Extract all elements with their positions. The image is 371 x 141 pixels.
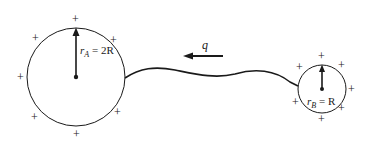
plus-charge-icon: + — [338, 101, 345, 115]
radius-b-arrowhead-icon — [319, 65, 325, 73]
plus-charge-icon: + — [292, 95, 299, 109]
sphere-b: rB = R + + + + + + + — [292, 49, 355, 126]
connecting-wire — [125, 68, 298, 86]
sphere-a-charges: + + + + + + + — [17, 12, 121, 141]
plus-charge-icon: + — [296, 60, 303, 74]
radius-b-label: rB = R — [307, 95, 336, 110]
plus-charge-icon: + — [110, 33, 117, 47]
charge-flow-indicator: q — [183, 38, 223, 60]
diagram-canvas: rA = 2R + + + + + + + q rB = R + + + + +… — [0, 0, 371, 141]
plus-charge-icon: + — [31, 110, 38, 124]
sphere-a-center-dot — [74, 75, 78, 79]
sphere-b-center-dot — [320, 87, 324, 91]
plus-charge-icon: + — [73, 127, 80, 141]
plus-charge-icon: + — [318, 112, 325, 126]
arrow-left-icon — [183, 53, 193, 60]
plus-charge-icon: + — [338, 58, 345, 72]
sphere-a: rA = 2R + + + + + + + — [17, 12, 125, 141]
charge-label-q: q — [202, 38, 208, 52]
radius-a-arrowhead-icon — [73, 28, 80, 37]
plus-charge-icon: + — [114, 105, 121, 119]
plus-charge-icon: + — [318, 49, 325, 63]
plus-charge-icon: + — [72, 12, 79, 26]
plus-charge-icon: + — [32, 31, 39, 45]
plus-charge-icon: + — [17, 70, 24, 84]
plus-charge-icon: + — [348, 82, 355, 96]
